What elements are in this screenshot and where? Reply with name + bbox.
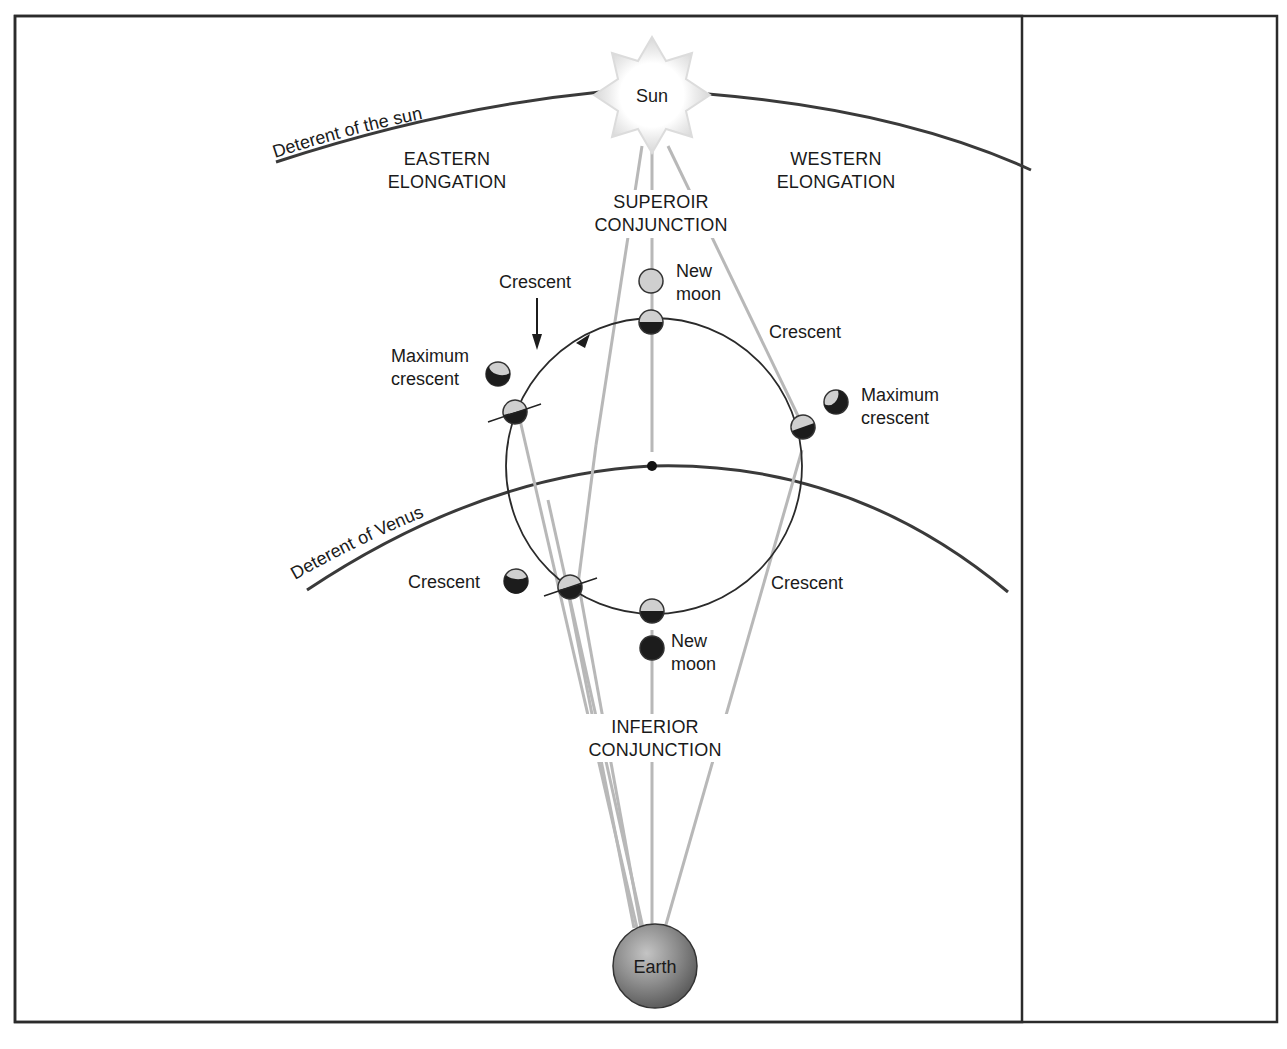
new-moon-top-line2: moon [676,284,721,304]
arrow-down-icon [532,334,542,350]
venus-left-epicycle [500,397,529,426]
superior-label-line2: CONJUNCTION [594,215,727,235]
new-moon-bottom-line2: moon [671,654,716,674]
max-crescent-left-icon [486,362,510,386]
venus-deferent-label: Deterent of Venus [287,502,426,584]
sightlines [520,146,802,928]
new-moon-bottom-line1: New [671,631,708,651]
crescent-top-right-label: Crescent [769,322,841,342]
max-crescent-right-line1: Maximum [861,385,939,405]
max-crescent-right-line2: crescent [861,408,929,428]
eastern-label-line1: EASTERN [404,149,490,169]
western-label-line2: ELONGATION [777,172,896,192]
diagram-canvas: Sun Earth Deterent of the sun Deterent o… [0,0,1287,1049]
inferior-label-line2: CONJUNCTION [588,740,721,760]
venus-new-moon-far [639,269,663,293]
crescent-lower-left-icon [504,569,528,594]
venus-top-epicycle [639,310,663,334]
venus-right-epicycle [788,412,819,443]
western-label-line1: WESTERN [790,149,881,169]
superior-label-line1: SUPEROIR [613,192,709,212]
max-crescent-left-line1: Maximum [391,346,469,366]
epicycle-center [647,461,657,471]
venus-bottom-epicycle [640,599,664,623]
crescent-bottom-right-label: Crescent [771,573,843,593]
crescent-bottom-left-label: Crescent [408,572,480,592]
sun-label: Sun [636,86,668,106]
eastern-label-line2: ELONGATION [388,172,507,192]
inferior-label-line1: INFERIOR [611,717,699,737]
max-crescent-right-icon [824,390,848,414]
venus-new-moon-near [640,636,664,660]
sun-deferent-label: Deterent of the sun [270,103,424,162]
new-moon-top-line1: New [676,261,713,281]
max-crescent-left-line2: crescent [391,369,459,389]
crescent-top-left-label: Crescent [499,272,571,292]
earth-label: Earth [633,957,676,977]
